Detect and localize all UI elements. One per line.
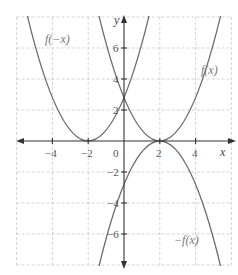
y-axis-up-arrow-icon bbox=[121, 15, 127, 23]
y-tick-label: −6 bbox=[107, 228, 119, 240]
x-axis-label: x bbox=[219, 145, 226, 159]
function-graph: y x −4 −2 0 2 4 6 4 2 −2 −4 −6 f(−x) f(x… bbox=[0, 0, 238, 275]
x-tick-label: −2 bbox=[81, 147, 93, 159]
y-tick-label: 4 bbox=[113, 73, 119, 85]
y-tick-label: 2 bbox=[113, 104, 119, 116]
y-axis-label: y bbox=[113, 13, 120, 27]
y-tick-label: 6 bbox=[113, 42, 119, 54]
curve-label-neg-f: −f(x) bbox=[174, 233, 199, 247]
x-axis-right-arrow-icon bbox=[228, 138, 236, 144]
curve-label-f: f(x) bbox=[201, 63, 218, 77]
y-axis bbox=[121, 15, 127, 269]
origin-label: 0 bbox=[113, 147, 119, 159]
x-axis-left-arrow-icon bbox=[16, 138, 24, 144]
x-tick-label: 4 bbox=[192, 147, 198, 159]
x-tick-label: 2 bbox=[156, 147, 162, 159]
curve-label-f-neg-x: f(−x) bbox=[45, 32, 70, 46]
y-tick-label: −2 bbox=[107, 166, 119, 178]
y-tick-label: −4 bbox=[107, 197, 119, 209]
x-axis bbox=[16, 138, 236, 144]
x-tick-label: −4 bbox=[45, 147, 57, 159]
